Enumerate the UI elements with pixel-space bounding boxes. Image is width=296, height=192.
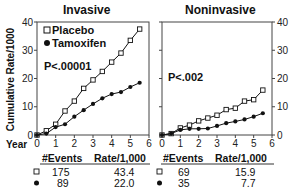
- legend-tamoxifen-label: Tamoxifen: [52, 37, 106, 49]
- x-tick-label: 3: [90, 138, 96, 149]
- tamoxifen-marker: [261, 111, 265, 115]
- tamoxifen-marker: [242, 117, 246, 121]
- placebo-marker: [215, 113, 219, 117]
- tamoxifen-marker: [72, 115, 76, 119]
- legend-tamoxifen-icon: [44, 40, 50, 46]
- placebo-marker: [137, 27, 141, 31]
- placebo-marker: [128, 38, 132, 42]
- x-tick-label: 2: [72, 138, 78, 149]
- placebo-marker: [100, 69, 104, 73]
- tamoxifen-marker: [82, 108, 86, 112]
- right-tamoxifen-rate: 7.7: [241, 177, 256, 189]
- tamoxifen-marker: [252, 115, 256, 119]
- x-tick-label: 5: [128, 138, 134, 149]
- placebo-marker: [251, 97, 255, 101]
- tamoxifen-marker: [128, 85, 132, 89]
- placebo-marker: [224, 107, 228, 111]
- right-tamoxifen-events: 35: [178, 177, 190, 189]
- legend-placebo-label: Placebo: [52, 24, 94, 36]
- series-line-tamoxifen: [37, 83, 140, 135]
- tamoxifen-marker: [187, 127, 191, 131]
- legend-placebo-icon: [44, 27, 50, 33]
- x-tick-label: 5: [251, 138, 257, 149]
- tamoxifen-marker: [63, 122, 67, 126]
- tamoxifen-marker: [178, 128, 182, 132]
- x-tick-label: 2: [196, 138, 202, 149]
- y-tick-label: 20: [22, 73, 34, 84]
- x-tick-label: 4: [233, 138, 239, 149]
- tamoxifen-marker: [110, 92, 114, 96]
- series-line-placebo: [162, 90, 263, 135]
- x-tick-label: 0: [34, 138, 40, 149]
- x-axis-label: Year: [6, 139, 27, 150]
- left-placebo-icon: [34, 169, 39, 174]
- tamoxifen-marker: [215, 124, 219, 128]
- y-tick-label: 40: [22, 17, 34, 28]
- tamoxifen-marker: [160, 133, 164, 137]
- placebo-marker: [206, 116, 210, 120]
- placebo-marker: [187, 123, 191, 127]
- tamoxifen-marker: [54, 125, 58, 129]
- y-tick-label: 10: [277, 101, 289, 112]
- tamoxifen-marker: [44, 131, 48, 135]
- invasive-title: Invasive: [63, 3, 110, 17]
- y-tick-label: 30: [277, 45, 289, 56]
- x-tick-label: 3: [214, 138, 220, 149]
- tamoxifen-marker: [169, 131, 173, 135]
- x-tick-label: 0: [159, 138, 165, 149]
- right-header-rate: Rate/1,000: [215, 152, 267, 164]
- right-header-events: #Events: [163, 152, 203, 164]
- left-tamoxifen-icon: [34, 181, 39, 186]
- x-tick-label: 6: [269, 138, 275, 149]
- tamoxifen-marker: [233, 119, 237, 123]
- y-tick-label: 40: [277, 17, 289, 28]
- tamoxifen-marker: [224, 121, 228, 125]
- y-axis-label: Cumulative Rate/1000: [5, 20, 16, 140]
- placebo-marker: [81, 86, 85, 90]
- x-tick-label: 1: [178, 138, 184, 149]
- x-tick-label: 1: [53, 138, 59, 149]
- placebo-marker: [109, 60, 113, 64]
- x-tick-label: 6: [146, 138, 152, 149]
- placebo-marker: [72, 99, 76, 103]
- right-placebo-icon: [157, 169, 162, 174]
- figure: 01234560102030400123456010203040 Invasiv…: [0, 0, 296, 192]
- tamoxifen-marker: [35, 133, 39, 137]
- placebo-marker: [242, 99, 246, 103]
- x-tick-label: 4: [109, 138, 115, 149]
- placebo-marker: [119, 51, 123, 55]
- tamoxifen-marker: [91, 102, 95, 106]
- y-tick-label: 30: [22, 45, 34, 56]
- placebo-marker: [233, 106, 237, 110]
- tamoxifen-marker: [119, 90, 123, 94]
- tamoxifen-marker: [206, 126, 210, 130]
- tamoxifen-marker: [197, 127, 201, 131]
- y-tick-label: 0: [277, 130, 283, 141]
- left-header-rate: Rate/1,000: [94, 152, 146, 164]
- left-tamoxifen-events: 89: [57, 177, 69, 189]
- y-tick-label: 10: [22, 101, 34, 112]
- placebo-marker: [196, 119, 200, 123]
- placebo-marker: [261, 88, 265, 92]
- y-tick-label: 20: [277, 73, 289, 84]
- noninvasive-title: Noninvasive: [185, 3, 256, 17]
- tamoxifen-marker: [138, 81, 142, 85]
- left-header-events: #Events: [42, 152, 82, 164]
- tamoxifen-marker: [100, 96, 104, 100]
- y-tick-label: 0: [27, 130, 33, 141]
- right-tamoxifen-icon: [157, 181, 162, 186]
- p-value-noninvasive: P<.002: [168, 71, 203, 83]
- left-tamoxifen-rate: 22.0: [114, 177, 134, 189]
- placebo-marker: [91, 78, 95, 82]
- p-value-invasive: P<.00001: [44, 60, 91, 72]
- placebo-marker: [63, 109, 67, 113]
